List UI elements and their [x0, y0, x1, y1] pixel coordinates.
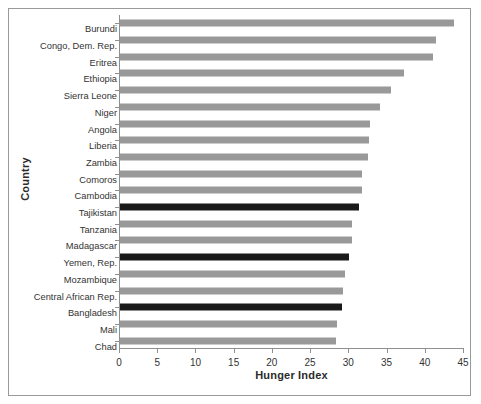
- y-axis-tick-label: Angola: [88, 124, 117, 136]
- bar: [120, 204, 359, 211]
- y-axis-tick-label: Cambodia: [75, 190, 117, 202]
- bar: [120, 304, 342, 311]
- y-axis-tick-labels: BurundiCongo, Dem. Rep.EritreaEthiopiaSi…: [33, 15, 117, 349]
- bar: [120, 287, 343, 294]
- y-axis-tick: [115, 40, 119, 41]
- bar: [120, 153, 368, 160]
- bar: [120, 170, 362, 177]
- x-axis-tick-label: 0: [116, 357, 122, 368]
- x-axis-tick: [272, 349, 273, 353]
- bar: [120, 87, 391, 94]
- y-axis-tick-label: Sierra Leone: [64, 90, 117, 102]
- y-axis-tick: [115, 274, 119, 275]
- x-axis-tick-label: 40: [419, 357, 430, 368]
- x-axis-tick-label: 30: [343, 357, 354, 368]
- y-axis-tick: [115, 324, 119, 325]
- y-axis-tick: [115, 190, 119, 191]
- y-axis-tick-label: Central African Rep.: [34, 291, 117, 303]
- y-axis-tick-label: Congo, Dem. Rep.: [40, 40, 117, 52]
- x-axis-tick: [195, 349, 196, 353]
- y-axis-tick: [115, 73, 119, 74]
- y-axis-tick: [115, 140, 119, 141]
- x-axis-tick-label: 35: [381, 357, 392, 368]
- y-axis-tick: [115, 57, 119, 58]
- y-axis-tick: [115, 257, 119, 258]
- bar: [120, 237, 352, 244]
- x-axis-tick-label: 5: [154, 357, 160, 368]
- x-axis-tick-label: 45: [457, 357, 468, 368]
- y-axis-tick-label: Tajikistan: [79, 207, 117, 219]
- y-axis-tick: [115, 174, 119, 175]
- bar: [120, 70, 404, 77]
- x-axis-tick-label: 10: [190, 357, 201, 368]
- y-axis-tick: [115, 124, 119, 125]
- x-axis-tick: [387, 349, 388, 353]
- bar: [120, 137, 369, 144]
- bar: [120, 187, 362, 194]
- y-axis-tick-label: Madagascar: [66, 240, 117, 252]
- bar: [120, 270, 345, 277]
- y-axis-tick-label: Mali: [100, 324, 117, 336]
- y-axis-title-text: Country: [19, 157, 31, 201]
- y-axis-tick-label: Burundi: [85, 23, 117, 35]
- bar: [120, 120, 370, 127]
- y-axis-tick-label: Comoros: [79, 174, 117, 186]
- y-axis-tick: [115, 240, 119, 241]
- x-axis-tick: [157, 349, 158, 353]
- y-axis-tick: [115, 207, 119, 208]
- x-axis-tick-label: 25: [305, 357, 316, 368]
- y-axis-tick-label: Niger: [95, 107, 117, 119]
- y-axis-tick-label: Tanzania: [80, 224, 117, 236]
- y-axis-line: [119, 15, 120, 349]
- bar: [120, 220, 352, 227]
- bar: [120, 337, 336, 344]
- y-axis-tick: [115, 224, 119, 225]
- y-axis-tick-label: Chad: [95, 341, 117, 353]
- x-axis-title: Hunger Index: [119, 369, 464, 381]
- y-axis-tick-label: Liberia: [89, 140, 117, 152]
- y-axis-tick: [115, 157, 119, 158]
- bar: [120, 254, 349, 261]
- bar: [120, 320, 337, 327]
- x-axis-tick: [234, 349, 235, 353]
- x-axis-tick: [119, 349, 120, 353]
- x-axis-tick: [348, 349, 349, 353]
- bar: [120, 103, 380, 110]
- y-axis-tick: [115, 291, 119, 292]
- y-axis-tick: [115, 341, 119, 342]
- plot-area: 051015202530354045: [119, 15, 464, 349]
- y-axis-tick-label: Mozambique: [64, 274, 117, 286]
- x-axis-tick: [463, 349, 464, 353]
- y-axis-title: Country: [15, 9, 35, 349]
- y-axis-tick-label: Bangladesh: [68, 307, 117, 319]
- x-axis-tick-label: 20: [266, 357, 277, 368]
- y-axis-tick-label: Ethiopia: [83, 73, 117, 85]
- bar: [120, 37, 436, 44]
- y-axis-tick-label: Yemen, Rep.: [64, 257, 117, 269]
- y-axis-tick-label: Zambia: [86, 157, 117, 169]
- y-axis-tick: [115, 307, 119, 308]
- y-axis-tick: [115, 90, 119, 91]
- y-axis-tick: [115, 23, 119, 24]
- x-axis-tick: [425, 349, 426, 353]
- x-axis-line: [119, 348, 464, 349]
- bar: [120, 53, 433, 60]
- x-axis-tick-label: 15: [228, 357, 239, 368]
- y-axis-tick: [115, 107, 119, 108]
- bar: [120, 20, 454, 27]
- chart-figure: Country BurundiCongo, Dem. Rep.EritreaEt…: [8, 8, 471, 396]
- y-axis-tick-label: Eritrea: [90, 57, 117, 69]
- x-axis-tick: [310, 349, 311, 353]
